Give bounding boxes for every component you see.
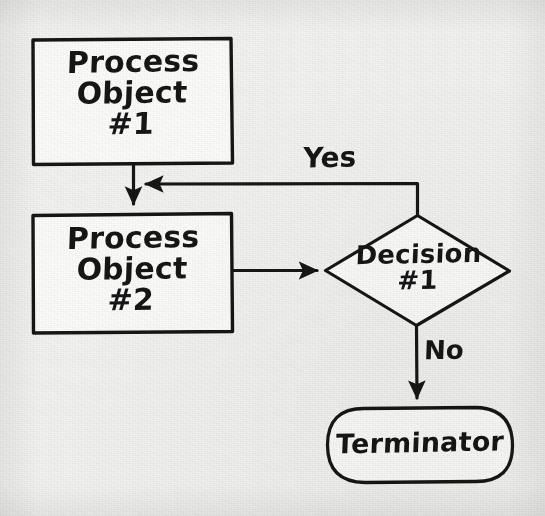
edge-decision-yes-to-process2 [146,184,418,216]
node-process-object-1[interactable] [32,38,233,165]
node-terminator[interactable] [327,407,514,484]
flowchart-canvas: Process#2 (up, left, arrowhead left) ===… [0,0,545,516]
edge-decision-no-to-terminator [417,326,418,398]
node-decision-1[interactable] [325,215,511,326]
node-process-object-2[interactable] [32,213,233,334]
